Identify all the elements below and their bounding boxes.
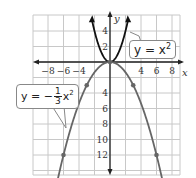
eq1-exponent: 2 (166, 42, 171, 51)
equation-label-parabola-up: y = x2 (129, 40, 176, 59)
x-axis-label: x (182, 67, 188, 78)
fraction: 13 (54, 87, 62, 106)
svg-text:4: 4 (102, 88, 108, 98)
svg-text:8: 8 (169, 66, 175, 76)
svg-text:6: 6 (102, 104, 108, 114)
svg-text:12: 12 (97, 150, 108, 160)
equation-label-parabola-down: y = −13x2 (16, 84, 79, 109)
svg-text:6: 6 (154, 66, 160, 76)
svg-text:−8: −8 (41, 66, 55, 76)
svg-text:2: 2 (102, 42, 108, 52)
svg-text:8: 8 (102, 119, 108, 129)
y-axis-label: y (113, 13, 120, 24)
denominator: 3 (55, 97, 61, 106)
svg-text:−6: −6 (57, 66, 71, 76)
eq2-text: y = − (21, 90, 53, 103)
svg-text:10: 10 (97, 135, 109, 145)
eq1-text: y = x (134, 43, 166, 57)
callout-pointer-2 (52, 106, 66, 128)
svg-text:−4: −4 (72, 66, 86, 76)
svg-text:4: 4 (102, 26, 108, 36)
eq2-exponent: 2 (69, 89, 73, 97)
svg-text:4: 4 (138, 66, 144, 76)
